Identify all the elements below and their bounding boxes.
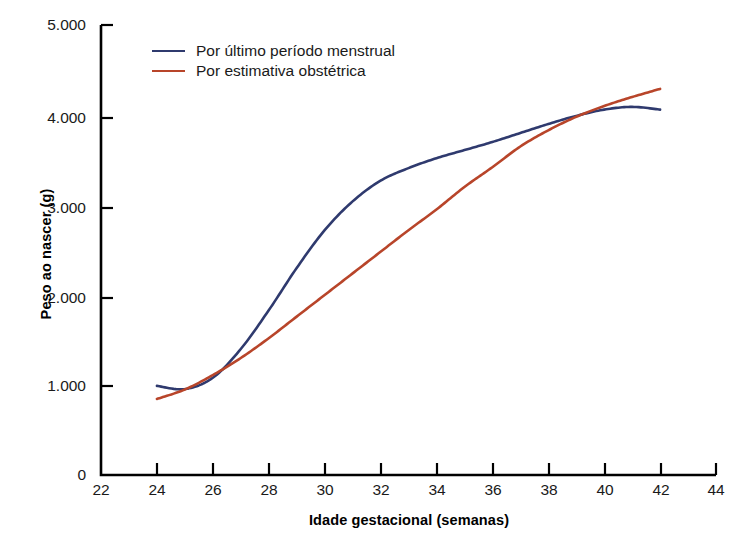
x-tick-label-32: 32 — [361, 481, 401, 499]
x-tick-label-36: 36 — [473, 481, 513, 499]
legend-label-lmp: Por último período menstrual — [196, 42, 395, 60]
legend: Por último período menstrual Por estimat… — [152, 41, 395, 81]
series-line-obstetric — [157, 89, 660, 399]
x-tick-label-40: 40 — [585, 481, 625, 499]
legend-swatch-lmp — [152, 50, 185, 52]
x-tick-label-38: 38 — [529, 481, 569, 499]
legend-label-obstetric: Por estimativa obstétrica — [196, 62, 366, 80]
x-tick-label-42: 42 — [641, 481, 681, 499]
x-tick-label-24: 24 — [137, 481, 177, 499]
x-tick-label-28: 28 — [249, 481, 289, 499]
x-axis-ticks — [157, 463, 716, 475]
y-tick-label-4000: 4.000 — [20, 109, 86, 127]
axis-spines — [101, 25, 716, 475]
x-tick-label-30: 30 — [305, 481, 345, 499]
legend-swatch-obstetric — [152, 70, 185, 72]
y-axis-title: Peso ao nascer (g) — [38, 129, 54, 379]
legend-item-lmp: Por último período menstrual — [152, 41, 395, 61]
chart-container: 5.000 4.000 3.000 2.000 1.000 0 22 24 26… — [0, 0, 736, 546]
x-tick-label-22: 22 — [81, 481, 121, 499]
legend-item-obstetric: Por estimativa obstétrica — [152, 61, 395, 81]
y-tick-label-0: 0 — [20, 466, 86, 484]
y-axis-ticks — [101, 25, 113, 386]
x-axis-title: Idade gestacional (semanas) — [101, 512, 717, 528]
y-tick-label-1000: 1.000 — [20, 377, 86, 395]
series-line-lmp — [157, 107, 660, 389]
y-tick-label-5000: 5.000 — [20, 16, 86, 34]
x-tick-label-44: 44 — [696, 481, 736, 499]
x-tick-label-34: 34 — [417, 481, 457, 499]
x-tick-label-26: 26 — [193, 481, 233, 499]
plot-area — [0, 0, 736, 546]
